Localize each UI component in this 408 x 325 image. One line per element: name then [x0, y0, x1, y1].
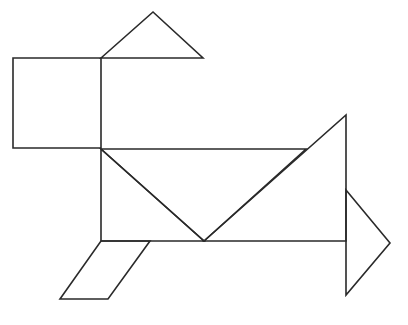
large-triangle-shape [204, 115, 346, 241]
tangram-diagram [0, 0, 408, 325]
parallelogram-shape [60, 241, 150, 299]
square-shape [13, 58, 101, 148]
top-triangle-shape [101, 12, 203, 58]
tail-triangle-shape [346, 190, 390, 295]
body-middle-triangle-shape [101, 149, 306, 241]
